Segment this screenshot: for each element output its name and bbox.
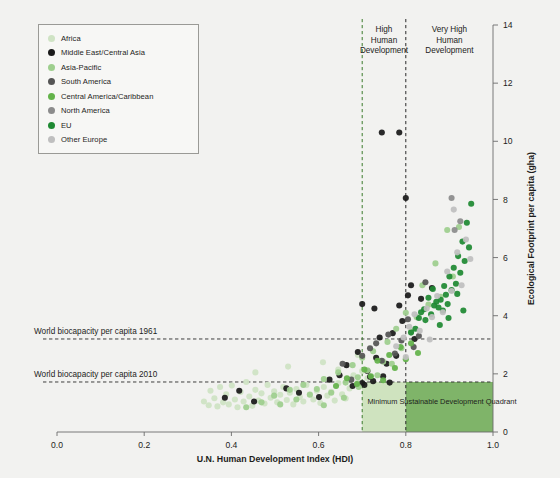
legend-item-label: Africa bbox=[61, 34, 81, 43]
data-point bbox=[354, 381, 360, 387]
data-point bbox=[361, 382, 367, 388]
y-tick-label-3: 6 bbox=[503, 253, 508, 263]
data-point bbox=[377, 334, 383, 340]
data-point bbox=[415, 350, 421, 356]
high-human-development-label: Development bbox=[360, 46, 409, 55]
legend-item-eu[interactable]: EU bbox=[46, 118, 192, 133]
data-point bbox=[234, 404, 240, 410]
data-point bbox=[258, 390, 264, 396]
data-point bbox=[373, 340, 379, 346]
data-point bbox=[429, 314, 435, 320]
legend-item-asia-pacific[interactable]: Asia-Pacific bbox=[46, 60, 192, 75]
legend-marker-icon bbox=[48, 122, 55, 129]
data-point bbox=[425, 295, 431, 301]
x-tick-label-2: 0.4 bbox=[225, 440, 237, 450]
legend-marker-icon bbox=[48, 49, 55, 56]
biocapacity-label-1: World biocapacity per capita 2010 bbox=[34, 370, 158, 379]
legend-item-other-europe[interactable]: Other Europe bbox=[46, 133, 192, 148]
legend-item-south-america[interactable]: South America bbox=[46, 75, 192, 90]
y-tick-label-1: 2 bbox=[503, 369, 508, 379]
data-point bbox=[246, 393, 252, 399]
data-point bbox=[430, 286, 436, 292]
legend-marker-icon bbox=[48, 35, 55, 42]
data-point bbox=[252, 369, 258, 375]
legend-marker-icon bbox=[48, 107, 55, 114]
data-point bbox=[258, 399, 264, 405]
data-point bbox=[214, 403, 220, 409]
data-point bbox=[229, 382, 235, 388]
data-point bbox=[359, 301, 365, 307]
data-point bbox=[277, 401, 283, 407]
high-human-development-label: High bbox=[376, 25, 393, 34]
data-point bbox=[355, 374, 361, 380]
data-point bbox=[408, 340, 414, 346]
series-other-europe bbox=[393, 207, 473, 360]
data-point bbox=[217, 384, 223, 390]
data-point bbox=[468, 201, 474, 207]
data-point bbox=[340, 361, 346, 367]
data-point bbox=[321, 384, 327, 390]
data-point bbox=[271, 393, 277, 399]
data-point bbox=[464, 220, 470, 226]
legend-item-africa[interactable]: Africa bbox=[46, 31, 192, 46]
data-point bbox=[277, 392, 283, 398]
data-point bbox=[418, 296, 424, 302]
data-point bbox=[463, 236, 469, 242]
data-point bbox=[459, 282, 465, 288]
series-eu bbox=[408, 201, 474, 336]
data-point bbox=[422, 279, 428, 285]
data-point bbox=[222, 395, 228, 401]
y-tick-label-2: 4 bbox=[503, 311, 508, 321]
data-point bbox=[440, 309, 446, 315]
data-point bbox=[385, 332, 391, 338]
legend: AfricaMiddle East/Central AsiaAsia-Pacif… bbox=[38, 24, 199, 154]
legend-item-label: Central America/Caribbean bbox=[61, 92, 153, 101]
data-point bbox=[379, 130, 385, 136]
data-point bbox=[432, 260, 438, 266]
data-point bbox=[417, 328, 423, 334]
legend-item-label: Middle East/Central Asia bbox=[61, 48, 145, 57]
data-point bbox=[293, 396, 299, 402]
data-point bbox=[243, 379, 249, 385]
data-point bbox=[401, 334, 407, 340]
data-point bbox=[207, 388, 213, 394]
data-point bbox=[251, 398, 257, 404]
data-point bbox=[326, 377, 332, 383]
data-point bbox=[405, 292, 411, 298]
x-tick-label-5: 1.0 bbox=[487, 440, 499, 450]
data-point bbox=[206, 402, 212, 408]
data-point bbox=[396, 130, 402, 136]
data-point bbox=[371, 305, 377, 311]
data-point bbox=[285, 364, 291, 370]
data-point bbox=[406, 324, 412, 330]
data-point bbox=[211, 395, 217, 401]
legend-item-central-america-caribbean[interactable]: Central America/Caribbean bbox=[46, 89, 192, 104]
x-tick-label-3: 0.6 bbox=[313, 440, 325, 450]
data-point bbox=[344, 375, 350, 381]
data-point bbox=[335, 369, 341, 375]
minimum-sustainable-development-quadrant-label: Minimum Sustainable Development Quadrant bbox=[367, 397, 516, 406]
legend-item-label: EU bbox=[61, 121, 72, 130]
data-point bbox=[444, 227, 450, 233]
x-tick-label-0: 0.0 bbox=[51, 440, 63, 450]
data-point bbox=[467, 256, 473, 262]
data-point bbox=[287, 387, 293, 393]
legend-marker-icon bbox=[48, 93, 55, 100]
legend-item-north-america[interactable]: North America bbox=[46, 104, 192, 119]
data-point bbox=[359, 353, 365, 359]
data-points-layer bbox=[201, 130, 474, 411]
data-point bbox=[243, 404, 249, 410]
data-point bbox=[350, 362, 356, 368]
legend-item-middle-east-central-asia[interactable]: Middle East/Central Asia bbox=[46, 46, 192, 61]
y-tick-label-4: 8 bbox=[503, 195, 508, 205]
data-point bbox=[380, 377, 386, 383]
data-point bbox=[374, 358, 380, 364]
data-point bbox=[454, 249, 460, 255]
data-point bbox=[232, 396, 238, 402]
legend-item-label: North America bbox=[61, 106, 110, 115]
data-point bbox=[236, 388, 242, 394]
legend-item-label: Other Europe bbox=[61, 135, 107, 144]
legend-item-label: South America bbox=[61, 77, 111, 86]
data-point bbox=[452, 227, 458, 233]
data-point bbox=[328, 390, 334, 396]
